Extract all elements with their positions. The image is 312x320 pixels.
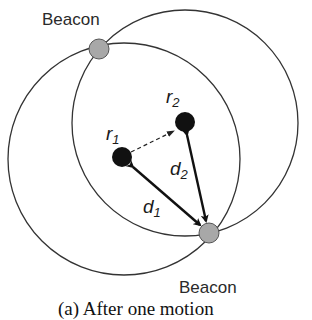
distance-arrow-d2 xyxy=(187,135,206,221)
beacon-top-label: Beacon xyxy=(42,10,100,29)
robot-r1-label: r1 xyxy=(106,123,120,147)
distance-d2-label: d2 xyxy=(170,158,189,182)
figure-caption: (a) After one motion xyxy=(58,298,214,320)
robot-r2 xyxy=(175,112,195,132)
distance-d1-label: d1 xyxy=(143,196,161,220)
robot-r2-label: r2 xyxy=(166,86,180,110)
beacon-bottom-label: Beacon xyxy=(179,278,237,297)
beacon-top xyxy=(89,39,109,59)
robot-r1 xyxy=(112,147,132,167)
beacon-bottom xyxy=(199,223,219,243)
motion-arrow xyxy=(131,131,174,152)
trilateration-diagram: Beacon Beacon r1 r2 d1 d2 (a) After one … xyxy=(0,0,312,320)
